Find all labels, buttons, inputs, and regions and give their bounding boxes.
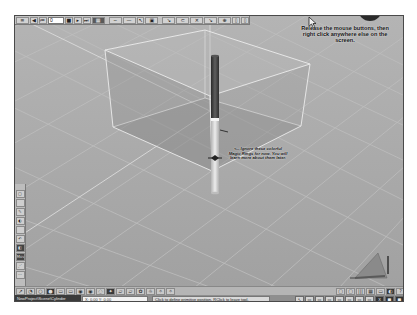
coordinate-field[interactable]: X: 0.00 Y: 0.00: [82, 296, 148, 303]
tool-button-11[interactable]: ▯: [241, 17, 249, 24]
bottom-tool-15[interactable]: ✧: [156, 288, 165, 295]
bottom-tool-13[interactable]: ✿: [136, 288, 145, 295]
main-menu-button[interactable]: ≡: [16, 17, 29, 24]
status-button-8[interactable]: ▭: [365, 296, 374, 303]
undo-button[interactable]: ↶: [16, 235, 25, 243]
view-button-5[interactable]: ▭: [376, 288, 385, 295]
bottom-tool-6[interactable]: ▭: [66, 288, 75, 295]
status-button-11[interactable]: ■: [395, 296, 404, 303]
toolbar-separator: [106, 17, 108, 24]
previous-key-button[interactable]: ⏮: [39, 17, 47, 24]
toolbar-separator: [159, 17, 161, 24]
bottom-toolbar: ↗ ◔ ○ ● ▭ ▭ ◉ ◉ ◌ ✦ ▱ ▱ ✿ ☼ ✧ ✧ ▢ ▢ ||| …: [15, 286, 404, 295]
left-tool-a[interactable]: ⋰: [16, 262, 25, 270]
tool-button-6[interactable]: ⊂: [176, 17, 189, 24]
tool-button-5[interactable]: ↘: [162, 17, 175, 24]
bottom-tool-3[interactable]: ○: [36, 288, 45, 295]
bottom-tool-10[interactable]: ✦: [106, 288, 115, 295]
bottom-tool-5[interactable]: ▭: [56, 288, 65, 295]
bottom-tool-4[interactable]: ●: [46, 288, 55, 295]
next-frame-button[interactable]: ▸: [74, 17, 82, 24]
status-button-4[interactable]: ▭: [325, 296, 334, 303]
current-object-path[interactable]: NewProject\Scene\Cylinder: [15, 295, 81, 302]
3d-viewport[interactable]: [15, 16, 404, 302]
rewind-button[interactable]: ◀: [30, 17, 38, 24]
camera-view-button[interactable]: ▣: [145, 17, 158, 24]
tool-button-9[interactable]: ⊕: [218, 17, 231, 24]
status-right-buttons: ↖ ▭ ▭ ▭ ▭ ▭ ▭ ▭ X ■ ■: [270, 296, 404, 303]
status-button-1[interactable]: ↖: [295, 296, 304, 303]
view-button-4[interactable]: ▦: [366, 288, 375, 295]
status-bar: NewProject\Scene\Cylinder X: 0.00 Y: 0.0…: [15, 295, 404, 302]
render-button[interactable]: ◧: [16, 244, 25, 252]
bottom-tool-8[interactable]: ◉: [86, 288, 95, 295]
bottom-tool-1[interactable]: ↗: [16, 288, 25, 295]
bottom-tool-2[interactable]: ◔: [26, 288, 35, 295]
move-tool-button[interactable]: Move: [16, 253, 25, 261]
status-button-5[interactable]: ▭: [335, 296, 344, 303]
status-button-3[interactable]: ▭: [315, 296, 324, 303]
left-toolbar: ▢ ✎ ◐ ↶ ◧ Move ⋰ ⋯: [15, 184, 26, 288]
view-button-1[interactable]: ▢: [336, 288, 345, 295]
app-window: ≡ ◀ ⏮ 0 ■ ▸ ⏭ ▦ ~ — ↖ ▣ ↘ ⊂ ✕ ↘ ⊕ ▯ ▯ Re…: [14, 15, 404, 302]
instruction-hint-magic-rings: <-- Ignore these colorful Magic Rings fo…: [228, 147, 288, 161]
object-tool-button[interactable]: ▢: [16, 190, 25, 198]
bottom-tool-16[interactable]: ✧: [166, 288, 175, 295]
tool-button-1[interactable]: ~: [109, 17, 122, 24]
scene-render: [15, 16, 404, 302]
left-tool-blank-1[interactable]: [16, 199, 25, 207]
paint-tool-button[interactable]: ✎: [16, 208, 25, 216]
tool-button-10[interactable]: ▯: [232, 17, 240, 24]
material-tool-button[interactable]: ◐: [16, 217, 25, 225]
tool-button-7[interactable]: ✕: [190, 17, 203, 24]
left-tool-blank-2[interactable]: [16, 226, 25, 234]
view-button-6[interactable]: ◐: [386, 288, 395, 295]
view-button-2[interactable]: ▢: [346, 288, 355, 295]
play-button[interactable]: ■: [65, 17, 73, 24]
status-button-2[interactable]: ▭: [305, 296, 314, 303]
top-toolbar: ≡ ◀ ⏮ 0 ■ ▸ ⏭ ▦ ~ — ↖ ▣ ↘ ⊂ ✕ ↘ ⊕ ▯ ▯: [15, 16, 250, 25]
status-button-7[interactable]: ▭: [355, 296, 364, 303]
grid-toggle-button[interactable]: ▦: [92, 17, 105, 24]
status-button-10[interactable]: ■: [385, 296, 394, 303]
bottom-tool-9[interactable]: ◌: [96, 288, 105, 295]
select-tool-button[interactable]: ↖: [137, 17, 145, 24]
close-icon[interactable]: X: [375, 296, 384, 303]
bottom-tool-12[interactable]: ▱: [126, 288, 135, 295]
tool-button-2[interactable]: —: [123, 17, 136, 24]
bottom-tool-14[interactable]: ☼: [146, 288, 155, 295]
next-key-button[interactable]: ⏭: [83, 17, 91, 24]
status-message: Click to define primitive position. RCli…: [152, 296, 270, 303]
tool-button-8[interactable]: ↘: [204, 17, 217, 24]
instruction-hint-release: Release the mouse buttons, then right cl…: [295, 25, 395, 43]
view-button-3[interactable]: |||: [356, 288, 365, 295]
status-button-6[interactable]: ▭: [345, 296, 354, 303]
help-button[interactable]: ?: [396, 288, 404, 295]
bottom-tool-11[interactable]: ▱: [116, 288, 125, 295]
frame-number-input[interactable]: 0: [48, 17, 64, 24]
left-tool-b[interactable]: ⋯: [16, 271, 25, 279]
bottom-tool-7[interactable]: ◉: [76, 288, 85, 295]
